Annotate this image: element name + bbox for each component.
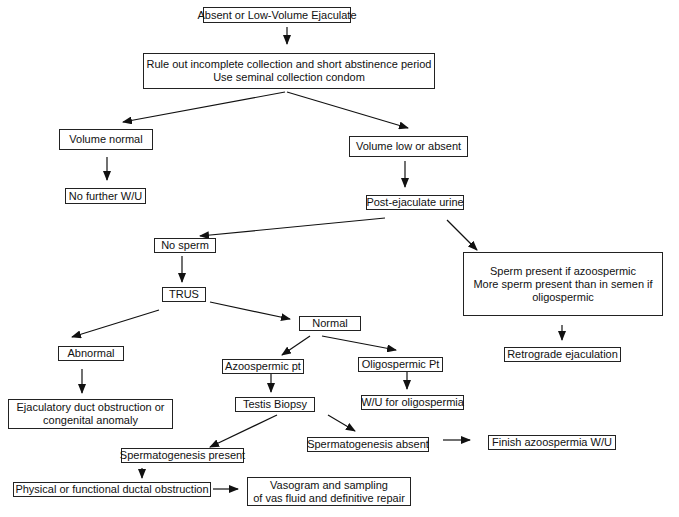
node-post-ejaculate-urine: Post-ejaculate urine — [366, 195, 464, 210]
node-abnormal: Abnormal — [58, 346, 124, 361]
node-azoospermic-pt: Azoospermic pt — [222, 359, 304, 374]
node-testis-biopsy: Testis Biopsy — [235, 397, 315, 412]
node-text: Testis Biopsy — [243, 398, 307, 411]
node-spermatogenesis-absent: Spermatogenesis absent — [307, 437, 429, 452]
node-text: TRUS — [169, 288, 199, 301]
node-text: Retrograde ejaculation — [507, 348, 618, 361]
node-ejaculatory-duct-obstruction: Ejaculatory duct obstruction or congenit… — [8, 399, 173, 429]
node-spermatogenesis-present: Spermatogenesis present — [121, 448, 244, 463]
node-vasogram: Vasogram and sampling of vas fluid and d… — [247, 477, 411, 506]
node-text: Abnormal — [67, 347, 114, 360]
node-text: No further W/U — [69, 190, 142, 203]
node-text: Absent or Low-Volume Ejaculate — [198, 9, 357, 22]
flowchart-canvas: Absent or Low-Volume Ejaculate Rule out … — [0, 0, 679, 517]
node-wu-oligospermia: W/U for oligospermia — [361, 395, 464, 410]
node-text: No sperm — [161, 239, 209, 252]
node-no-further-wu: No further W/U — [65, 188, 146, 204]
node-text: Spermatogenesis present — [120, 449, 245, 462]
node-oligospermic-pt: Oligospermic Pt — [358, 357, 443, 372]
node-text: Azoospermic pt — [225, 360, 301, 373]
node-text: W/U for oligospermia — [361, 396, 464, 409]
node-start: Absent or Low-Volume Ejaculate — [203, 7, 351, 23]
node-finish-azoospermia-wu: Finish azoospermia W/U — [488, 435, 616, 450]
node-text: Finish azoospermia W/U — [492, 436, 612, 449]
node-volume-normal: Volume normal — [59, 129, 153, 150]
node-text: Sperm present if azoospermic — [490, 265, 636, 278]
node-volume-low: Volume low or absent — [349, 136, 468, 157]
node-text: Volume low or absent — [356, 140, 461, 153]
node-text: Post-ejaculate urine — [366, 196, 463, 209]
node-trus: TRUS — [162, 287, 206, 302]
node-retrograde-ejaculation: Retrograde ejaculation — [504, 347, 621, 362]
node-text: Vasogram and sampling — [270, 479, 388, 492]
node-text: of vas fluid and definitive repair — [253, 492, 405, 505]
node-text: congenital anomaly — [43, 414, 138, 427]
node-physical-ductal-obstruction: Physical or functional ductal obstructio… — [13, 482, 211, 497]
node-text: Oligospermic Pt — [362, 358, 440, 371]
node-text: Ejaculatory duct obstruction or — [17, 401, 165, 414]
node-sperm-present: Sperm present if azoospermic More sperm … — [463, 252, 663, 316]
node-text: Normal — [312, 317, 347, 330]
node-text: Rule out incomplete collection and short… — [147, 58, 432, 71]
node-text: oligospermic — [532, 291, 594, 304]
node-text: More sperm present than in semen if — [473, 278, 652, 291]
node-text: Spermatogenesis absent — [307, 438, 429, 451]
node-normal: Normal — [299, 316, 361, 331]
node-text: Volume normal — [69, 133, 142, 146]
node-rule-out: Rule out incomplete collection and short… — [143, 53, 435, 89]
node-text: Physical or functional ductal obstructio… — [15, 483, 208, 496]
node-text: Use seminal collection condom — [213, 71, 365, 84]
node-no-sperm: No sperm — [154, 238, 216, 253]
